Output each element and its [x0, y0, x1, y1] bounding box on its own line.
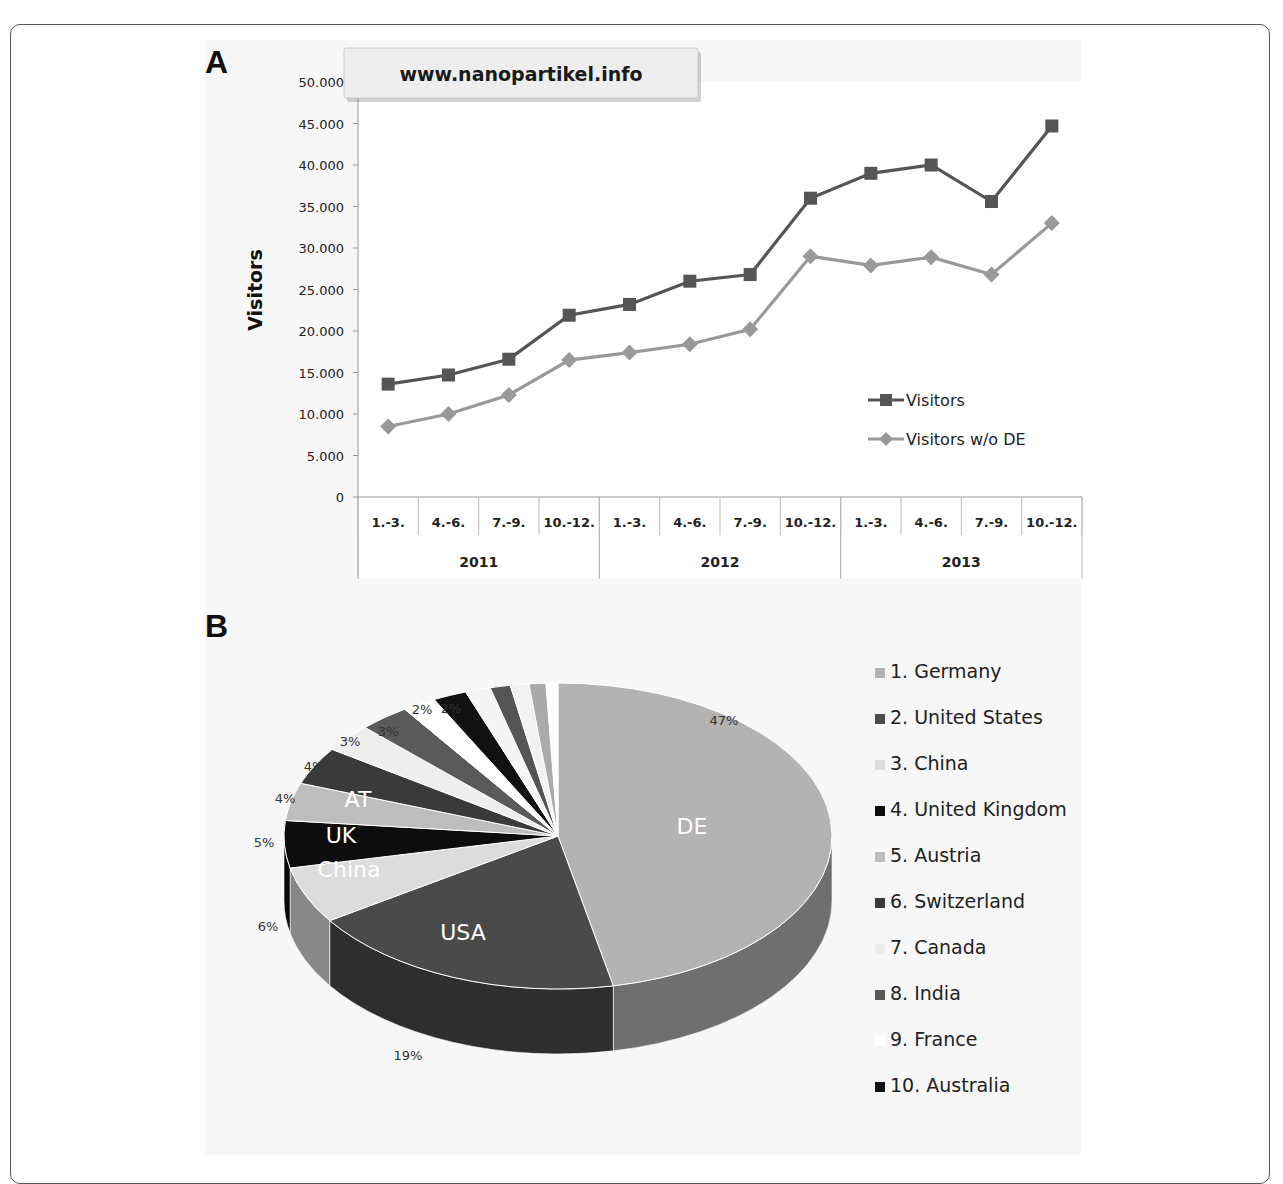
legend-label: 5. Austria	[890, 844, 981, 866]
data-point-marker	[623, 298, 636, 311]
x-tick-label: 10.-12.	[1026, 515, 1077, 530]
legend-label: 4. United Kingdom	[890, 798, 1067, 820]
legend-label: 9. France	[890, 1028, 977, 1050]
y-tick-label: 10.000	[299, 407, 345, 422]
slice-percent-label: 6%	[258, 919, 279, 934]
data-point-marker	[563, 309, 576, 322]
y-tick-label: 50.000	[299, 75, 345, 90]
data-point-marker	[442, 368, 455, 381]
x-tick-label: 1.-3.	[371, 515, 404, 530]
legend-label: 2. United States	[890, 706, 1043, 728]
y-tick-label: 0	[336, 490, 344, 505]
legend-label: 8. India	[890, 982, 961, 1004]
x-group-label: 2013	[942, 554, 981, 570]
data-point-marker	[985, 195, 998, 208]
x-tick-label: 1.-3.	[854, 515, 887, 530]
slice-percent-label: 4%	[304, 759, 325, 774]
data-point-marker	[925, 159, 938, 172]
x-tick-label: 4.-6.	[432, 515, 465, 530]
slice-inner-label: DE	[677, 814, 708, 839]
slice-percent-label: 3%	[378, 724, 399, 739]
x-tick-label: 1.-3.	[613, 515, 646, 530]
x-tick-label: 10.-12.	[785, 515, 836, 530]
x-group-label: 2011	[459, 554, 498, 570]
legend-swatch	[875, 668, 885, 678]
slice-percent-label: 4%	[275, 791, 296, 806]
slice-inner-label: AT	[345, 787, 372, 812]
legend-label: 10. Australia	[890, 1074, 1010, 1096]
legend-label: 6. Switzerland	[890, 890, 1025, 912]
slice-inner-label: USA	[440, 920, 486, 945]
legend-label: Visitors w/o DE	[906, 430, 1026, 449]
data-point-marker	[864, 167, 877, 180]
slice-percent-label: 19%	[394, 1048, 423, 1063]
x-tick-label: 4.-6.	[914, 515, 947, 530]
chart-title-box: www.nanopartikel.info	[344, 48, 701, 102]
chart-title: www.nanopartikel.info	[399, 63, 642, 85]
legend-swatch	[875, 852, 885, 862]
x-tick-label: 10.-12.	[543, 515, 594, 530]
slice-inner-label: UK	[326, 823, 357, 848]
slice-percent-label: 2%	[441, 701, 462, 716]
x-tick-label: 4.-6.	[673, 515, 706, 530]
x-tick-label: 7.-9.	[975, 515, 1008, 530]
data-point-marker	[804, 192, 817, 205]
y-tick-label: 20.000	[299, 324, 345, 339]
y-tick-label: 25.000	[299, 283, 345, 298]
legend-swatch	[875, 714, 885, 724]
legend-swatch	[875, 806, 885, 816]
x-tick-label: 7.-9.	[733, 515, 766, 530]
slice-percent-label: 5%	[254, 835, 275, 850]
x-group-label: 2012	[701, 554, 740, 570]
x-tick-label: 7.-9.	[492, 515, 525, 530]
y-tick-label: 30.000	[299, 241, 345, 256]
legend-swatch	[875, 990, 885, 1000]
slice-percent-label: 3%	[340, 734, 361, 749]
slice-inner-label: China	[318, 857, 381, 882]
slice-percent-label: 2%	[412, 702, 433, 717]
pie-legend: 1. Germany2. United States3. China4. Uni…	[875, 660, 1067, 1096]
data-point-marker	[683, 275, 696, 288]
line-chart-visitors: 05.00010.00015.00020.00025.00030.00035.0…	[0, 0, 1283, 600]
y-tick-label: 45.000	[299, 117, 345, 132]
data-point-marker	[502, 353, 515, 366]
slice-percent-label: 47%	[710, 713, 739, 728]
y-axis-label: Visitors	[244, 249, 266, 331]
y-tick-label: 15.000	[299, 366, 345, 381]
data-point-marker	[1045, 119, 1058, 132]
legend-swatch	[875, 1036, 885, 1046]
y-tick-label: 35.000	[299, 200, 345, 215]
data-point-marker	[382, 378, 395, 391]
legend-swatch	[875, 760, 885, 770]
legend-label: 1. Germany	[890, 660, 1002, 682]
legend-label: 3. China	[890, 752, 968, 774]
data-point-marker	[744, 268, 757, 281]
y-tick-label: 5.000	[307, 449, 344, 464]
y-tick-label: 40.000	[299, 158, 345, 173]
legend-swatch	[875, 898, 885, 908]
legend-label: 7. Canada	[890, 936, 986, 958]
legend-swatch	[875, 1082, 885, 1092]
legend-label: Visitors	[906, 391, 965, 410]
pie-chart-countries: DEUSAChinaUKAT47%19%6%5%4%4%3%3%2%2%1. G…	[0, 600, 1283, 1166]
legend-swatch	[875, 944, 885, 954]
